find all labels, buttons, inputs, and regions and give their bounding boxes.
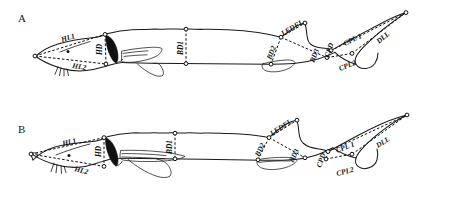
specimen-b-barbel-2 [56, 164, 57, 172]
figure-root: A [0, 0, 458, 210]
landmark-b-anal-base [256, 158, 260, 162]
measure-line-a-cpl1 [331, 13, 406, 51]
landmark-a-caudal-tip [404, 11, 408, 15]
specimen-a-barbel-1 [55, 67, 58, 75]
measure-label-b-hl1: HL1 [60, 136, 77, 148]
specimen-b-anal-fin-ray [259, 161, 290, 163]
panel-a: A [18, 11, 408, 77]
landmark-a-bd1-top [184, 27, 188, 31]
landmark-b-eye [68, 154, 71, 157]
measure-label-a-cpl2: CPL2 [337, 58, 357, 73]
panel-b: B [18, 113, 409, 178]
measure-label-a-hd: HD [95, 43, 104, 56]
landmark-b-snout [29, 152, 33, 156]
landmark-a-bd1-bottom [184, 62, 188, 66]
specimen-a-pectoral-fin-ray [123, 51, 148, 54]
measure-label-b-cpd: CPD [314, 151, 327, 168]
measure-label-b-ledfl: LEDFL [267, 117, 293, 139]
specimen-a-pelvic-fin [137, 63, 163, 76]
measure-label-a-bd2: BD2 [264, 44, 278, 62]
measure-line-b-cpl2 [326, 154, 352, 159]
measure-label-a-dll: DLL [374, 29, 392, 46]
panel-label-b: B [18, 123, 25, 135]
landmark-b-dorsal-fin-tip [295, 118, 299, 122]
landmark-b-caudal-tip [405, 113, 409, 117]
specimen-a-opercle [106, 35, 118, 63]
landmark-a-head-dorsal [103, 33, 107, 37]
landmark-a-snout [33, 54, 37, 58]
landmark-b-peduncle-top [326, 150, 330, 154]
measure-label-a-bd1: BD1 [176, 41, 185, 56]
landmark-b-caudal-mid [350, 152, 354, 156]
landmark-b-bd3-end [303, 156, 307, 160]
landmark-a-head-ventral [104, 62, 108, 66]
measure-label-b-dll: DLL [373, 134, 391, 150]
landmark-a-anal-base [269, 62, 273, 66]
measure-label-a-hl1: HL1 [59, 31, 76, 44]
measure-label-b-bd2: BD2 [252, 141, 267, 159]
measure-label-b-hd: HD [94, 145, 103, 158]
measure-label-b-bd3: BD3 [286, 147, 301, 165]
landmark-a-caudal-mid [350, 52, 354, 56]
specimen-a-ventral-outline [122, 52, 335, 64]
specimen-a-pectoral-fin-ray-2 [124, 55, 147, 57]
measure-label-b-bd1: BD1 [165, 140, 174, 155]
measure-label-b-cpl2: CPL2 [335, 165, 355, 178]
measure-label-a-ledfl: LEDFL [279, 17, 306, 38]
panel-label-a: A [18, 12, 26, 24]
specimen-a-anal-fin [262, 60, 295, 72]
specimen-b-pelvic-fin [128, 159, 171, 177]
landmark-b-head-ventral [102, 165, 106, 169]
landmark-b-bd1-bottom [173, 157, 177, 161]
landmark-a-eye [67, 50, 70, 53]
measure-line-b-bd3 [269, 138, 305, 158]
specimen-b-barbel-3 [61, 165, 62, 173]
measure-label-a-bd3: BD3 [307, 47, 321, 65]
specimen-b-opercle [106, 138, 118, 166]
landmark-b-dorsal-fin-origin [267, 136, 271, 140]
specimen-a-barbel-2 [60, 68, 62, 76]
measure-label-a-cpl1: CPL 1 [342, 31, 363, 48]
specimen-b-pectoral-fin-ray [122, 154, 166, 156]
specimen-b-barbel-1 [51, 163, 54, 172]
landmark-b-bd1-top [173, 131, 177, 135]
landmark-b-head-dorsal [102, 136, 106, 140]
